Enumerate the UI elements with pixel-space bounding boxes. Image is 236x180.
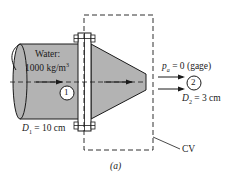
section-2-diameter: D2 = 3 cm (182, 94, 221, 105)
nozzle-diagram (0, 0, 236, 180)
section-1-diameter: D1 = 10 cm (22, 124, 65, 135)
d1-value: = 10 cm (32, 123, 66, 133)
section-2-pressure: pa = 0 (gage) (162, 62, 211, 73)
fluid-density-exp: 3 (66, 62, 69, 68)
control-volume-label: CV (182, 145, 195, 155)
fluid-density-value: 1000 kg/m (25, 63, 66, 73)
pa-value: = 0 (gage) (170, 61, 212, 71)
figure-caption: (a) (110, 162, 121, 172)
fluid-label-line1: Water: (35, 50, 60, 60)
jet-arrow-bottom-head (178, 87, 185, 92)
d1-symbol: D (22, 123, 29, 133)
fluid-label-line2: 1000 kg/m3 (25, 62, 69, 74)
d2-value: = 3 cm (192, 93, 221, 103)
pipe-end-ellipse (13, 44, 27, 119)
cv-leader-line (153, 137, 180, 149)
section-1-id: 1 (64, 88, 69, 97)
jet-arrow-top-head (178, 75, 185, 80)
d2-symbol: D (182, 93, 189, 103)
section-2-id: 2 (191, 78, 196, 87)
